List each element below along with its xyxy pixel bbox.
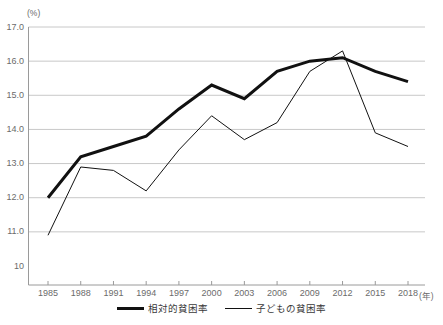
series-line-child-poverty-rate [48,51,408,235]
legend-item-relative-poverty-rate: 相対的貧困率 [117,301,208,315]
poverty-rate-line-chart: (%) 17.016.015.014.013.012.011.010 19851… [0,0,443,325]
yaxis-tick-label-13.0: 13.0 [0,158,24,168]
yaxis-tick-label-16.0: 16.0 [0,56,24,66]
chart-plot-svg [0,0,443,325]
yaxis-unit-label: (%) [27,8,40,18]
series-lines-group [48,51,408,235]
yaxis-tick-label-10: 10 [0,261,24,271]
yaxis-tick-label-15.0: 15.0 [0,90,24,100]
xaxis-ticks-group [48,281,408,285]
xaxis-unit-label: (年) [419,289,434,301]
legend-line-swatch-thin [225,308,252,309]
chart-legend: 相対的貧困率 子どもの貧困率 [0,301,443,315]
yaxis-tick-label-11.0: 11.0 [0,226,24,236]
yaxis-tick-label-17.0: 17.0 [0,22,24,32]
legend-label-relative-poverty-rate: 相対的貧困率 [148,301,208,315]
gridlines-group [29,27,426,232]
legend-label-child-poverty-rate: 子どもの貧困率 [256,301,326,315]
legend-line-swatch-bold [117,307,144,310]
yaxis-tick-label-12.0: 12.0 [0,192,24,202]
yaxis-tick-label-14.0: 14.0 [0,124,24,134]
legend-item-child-poverty-rate: 子どもの貧困率 [225,301,326,315]
